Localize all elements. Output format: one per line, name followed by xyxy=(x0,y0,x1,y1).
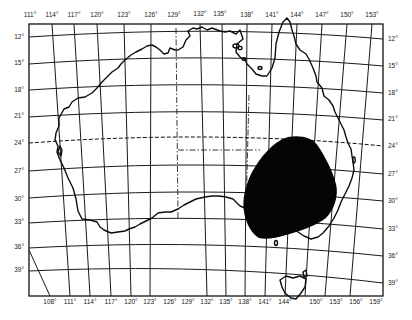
svg-text:30°: 30° xyxy=(14,195,24,202)
svg-text:117°: 117° xyxy=(68,11,81,18)
svg-text:132°: 132° xyxy=(193,10,207,17)
top-longitude-labels: 111° 114° 117° 120° 123° 126° 129° 132° … xyxy=(24,10,379,18)
svg-text:33°: 33° xyxy=(388,225,398,232)
svg-text:114°: 114° xyxy=(84,298,97,305)
svg-text:156°: 156° xyxy=(349,298,363,305)
svg-text:129°: 129° xyxy=(167,11,181,18)
svg-text:18°: 18° xyxy=(388,89,398,96)
bottom-longitude-labels: 108° 111° 114° 117° 120° 123° 126° 129° … xyxy=(43,298,383,305)
australia-map: 111° 114° 117° 120° 123° 126° 129° 132° … xyxy=(0,0,412,320)
svg-text:36°: 36° xyxy=(388,252,398,259)
right-latitude-labels: 12° 15° 18° 21° 24° 27° 30° 33° 36° 39° xyxy=(388,35,398,286)
svg-text:27°: 27° xyxy=(14,167,24,174)
svg-text:138°: 138° xyxy=(238,298,252,305)
svg-text:33°: 33° xyxy=(14,218,24,225)
svg-text:144°: 144° xyxy=(278,298,292,305)
svg-text:153°: 153° xyxy=(329,298,343,305)
svg-text:141°: 141° xyxy=(258,298,272,305)
svg-text:24°: 24° xyxy=(14,139,24,146)
svg-text:117°: 117° xyxy=(105,298,118,305)
svg-text:108°: 108° xyxy=(43,298,57,305)
svg-text:153°: 153° xyxy=(365,11,379,18)
svg-text:39°: 39° xyxy=(14,266,24,273)
svg-text:36°: 36° xyxy=(14,243,24,250)
svg-text:12°: 12° xyxy=(388,35,398,42)
tropic-of-capricorn-line xyxy=(29,137,383,146)
svg-text:120°: 120° xyxy=(90,11,104,18)
svg-text:135°: 135° xyxy=(219,298,233,305)
svg-text:132°: 132° xyxy=(200,298,214,305)
svg-text:141°: 141° xyxy=(265,11,279,18)
svg-text:111°: 111° xyxy=(24,11,37,18)
svg-text:144°: 144° xyxy=(290,11,304,18)
left-latitude-labels: 12° 15° 18° 21° 24° 27° 30° 33° 36° 39° xyxy=(14,33,24,273)
svg-text:39°: 39° xyxy=(388,279,398,286)
svg-text:21°: 21° xyxy=(14,112,24,119)
svg-text:129°: 129° xyxy=(181,298,195,305)
flinders-island xyxy=(303,270,307,277)
svg-text:147°: 147° xyxy=(315,11,329,18)
svg-text:120°: 120° xyxy=(124,298,138,305)
svg-text:159°: 159° xyxy=(369,298,383,305)
svg-text:21°: 21° xyxy=(388,115,398,122)
svg-text:30°: 30° xyxy=(388,197,398,204)
svg-text:126°: 126° xyxy=(163,298,177,305)
svg-text:114°: 114° xyxy=(46,11,59,18)
svg-text:111°: 111° xyxy=(64,298,77,305)
svg-text:126°: 126° xyxy=(144,11,158,18)
svg-text:138°: 138° xyxy=(240,11,254,18)
svg-text:150°: 150° xyxy=(340,11,354,18)
svg-text:27°: 27° xyxy=(388,170,398,177)
svg-text:135°: 135° xyxy=(213,10,227,17)
svg-text:12°: 12° xyxy=(14,33,24,40)
svg-text:15°: 15° xyxy=(14,59,24,66)
svg-text:24°: 24° xyxy=(388,142,398,149)
svg-text:123°: 123° xyxy=(117,11,131,18)
svg-text:150°: 150° xyxy=(309,298,323,305)
svg-text:123°: 123° xyxy=(143,298,157,305)
svg-text:18°: 18° xyxy=(14,86,24,93)
svg-text:15°: 15° xyxy=(388,62,398,69)
